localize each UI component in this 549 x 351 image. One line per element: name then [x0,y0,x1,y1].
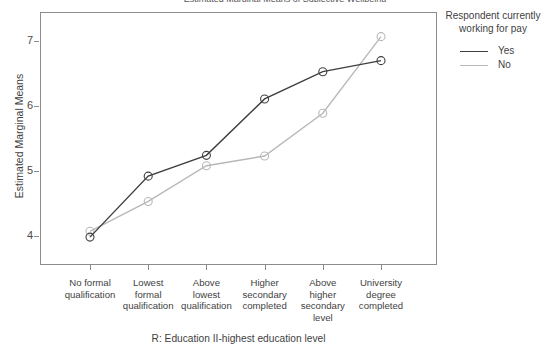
chart-container: Estimated Marginal Means of Subjective W… [0,0,549,351]
x-axis-tick-mark [90,265,91,270]
y-axis-tick-label: 7 [11,35,33,46]
x-axis-tick-mark [206,265,207,270]
x-axis-tick-label-line: completed [345,300,417,312]
y-axis-tick-mark [34,106,39,107]
x-axis-tick-mark [148,265,149,270]
legend-item-label: No [498,60,511,70]
legend-title-line-1: Respondent currently [441,10,545,23]
x-axis-tick-label-line: level [287,312,359,324]
legend-item-yes[interactable]: Yes [441,44,549,58]
series-line-yes [90,61,381,237]
y-axis-title: Estimated Marginal Means [13,61,25,211]
x-axis-tick-label-line: degree [345,289,417,301]
legend-items: YesNo [441,44,549,72]
legend: Respondent currently working for pay Yes… [441,10,549,72]
y-axis-tick-mark [34,41,39,42]
plot-area [40,12,437,265]
x-axis-tick-mark [323,265,324,270]
series-line-no [90,37,381,232]
x-axis-tick-mark [381,265,382,270]
x-axis-tick-label-line: University [345,277,417,289]
chart-title: Estimated Marginal Means of Subjective W… [120,0,450,2]
legend-title: Respondent currently working for pay [441,10,545,35]
x-axis-title: R: Education II-highest education level [40,333,437,344]
legend-title-line-2: working for pay [441,23,545,36]
legend-item-no[interactable]: No [441,58,549,72]
y-axis-tick-mark [34,236,39,237]
legend-line-swatch [460,51,488,52]
legend-line-swatch [460,65,488,66]
x-axis-tick-label: Universitydegreecompleted [345,277,417,312]
x-axis-tick-mark [265,265,266,270]
legend-item-label: Yes [498,46,514,56]
y-axis-tick-mark [34,171,39,172]
y-axis-tick-label: 4 [11,230,33,241]
